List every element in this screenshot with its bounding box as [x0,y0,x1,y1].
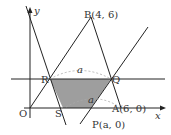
y-axis-label: y [33,5,40,16]
diagram-svg: B(4, 6) A(6, 0) O R Q S P(a, 0) x y a a [0,0,171,135]
x-axis-label: x [155,110,161,121]
point-label-s: S [55,108,62,119]
point-label-b: B(4, 6) [84,9,118,20]
point-label-r: R [41,74,49,85]
point-label-p: P(a, 0) [92,119,125,130]
origin-label: O [19,108,27,119]
point-label-q: Q [112,74,120,85]
coordinate-diagram: B(4, 6) A(6, 0) O R Q S P(a, 0) x y a a [0,0,171,135]
point-label-a: A(6, 0) [111,103,146,114]
dimension-label-sp: a [88,94,94,105]
dimension-label-rq: a [77,64,83,75]
x-axis-arrow-icon [160,106,166,111]
